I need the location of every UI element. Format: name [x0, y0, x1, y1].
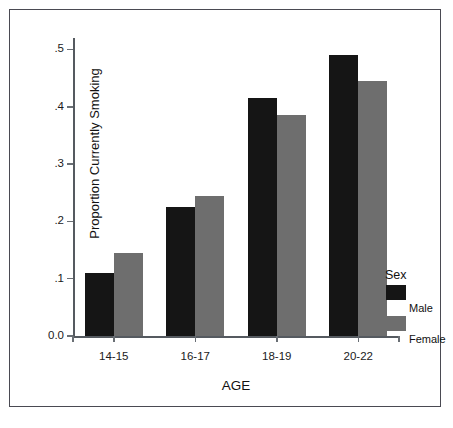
y-tick-label: .2: [36, 214, 64, 226]
legend-swatch-female: [386, 316, 406, 331]
bar-male-14-15: [85, 273, 114, 336]
x-tick-label: 16-17: [160, 350, 230, 362]
y-tick-label: .5: [36, 42, 64, 54]
figure-border: 0.0.1.2.3.4.5 Proportion Currently Smoki…: [9, 9, 441, 407]
figure-canvas: 0.0.1.2.3.4.5 Proportion Currently Smoki…: [0, 0, 453, 428]
x-tick: [113, 336, 115, 342]
bar-female-14-15: [114, 253, 143, 336]
y-tick-label-text: .2: [38, 214, 64, 226]
x-tick: [195, 336, 197, 342]
y-tick-label-text: .1: [38, 272, 64, 284]
bar-female-16-17: [195, 196, 224, 336]
y-tick-label-text: 0.0: [38, 329, 64, 341]
legend-label-male: Male: [409, 302, 433, 314]
bar-male-20-22: [329, 55, 358, 336]
x-tick: [358, 336, 360, 342]
x-axis-line: [73, 336, 399, 338]
bar-female-20-22: [358, 81, 387, 336]
y-axis-title: Proportion Currently Smoking: [87, 49, 102, 259]
y-tick-label: .4: [36, 100, 64, 112]
plot-area: Proportion Currently Smoking: [73, 38, 399, 336]
x-axis-end-tick: [72, 336, 74, 342]
x-tick-label: 14-15: [79, 350, 149, 362]
x-axis-title: AGE: [73, 378, 399, 393]
x-tick-label: 18-19: [242, 350, 312, 362]
y-tick-label-text: .5: [38, 42, 64, 54]
x-tick-label: 20-22: [323, 350, 393, 362]
y-tick-label: .3: [36, 157, 64, 169]
x-tick: [276, 336, 278, 342]
bar-male-18-19: [248, 98, 277, 336]
legend-label-female: Female: [409, 333, 446, 345]
bar-male-16-17: [166, 207, 195, 336]
legend-title: Sex: [385, 268, 407, 282]
x-axis-end-tick: [398, 336, 400, 342]
legend-swatch-male: [386, 285, 406, 300]
y-tick-label-text: .3: [38, 157, 64, 169]
y-tick-label: 0.0: [36, 329, 64, 341]
y-tick-label: .1: [36, 272, 64, 284]
y-tick-label-text: .4: [38, 100, 64, 112]
bar-female-18-19: [277, 115, 306, 336]
